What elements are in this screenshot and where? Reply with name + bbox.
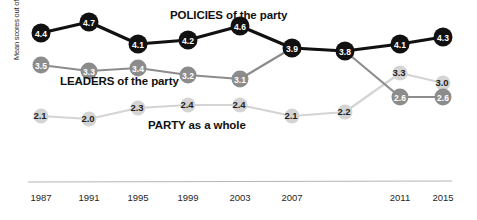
x-tick-label-2011: 2011 xyxy=(380,192,420,203)
data-label-party-0: 2.1 xyxy=(33,110,47,121)
data-label-leaders-8: 2.6 xyxy=(437,93,449,103)
series-annotation-party: PARTY as a whole xyxy=(148,119,246,131)
data-label-party-3: 2.4 xyxy=(180,99,194,110)
data-label-policies-3: 4.2 xyxy=(182,36,194,46)
data-label-policies-5: 3.9 xyxy=(286,44,298,54)
x-tick-label-1991: 1991 xyxy=(69,192,109,203)
data-label-party-6: 2.2 xyxy=(337,106,350,117)
series-leaders: 3.53.33.43.23.13.93.82.62.6 xyxy=(33,40,452,106)
series-annotation-party-text: PARTY as a whole xyxy=(148,119,246,131)
x-tick-label-2015: 2015 xyxy=(423,192,463,203)
x-axis xyxy=(28,181,452,182)
chart-container: 2.12.02.32.42.42.12.23.33.0 3.53.33.43.2… xyxy=(0,0,477,220)
data-label-party-2: 2.3 xyxy=(130,102,143,113)
series-annotation-policies-text: POLICIES of the party xyxy=(170,9,287,21)
y-axis-title: Mean scores out of 10 xyxy=(12,0,21,60)
data-label-party-1: 2.0 xyxy=(81,113,94,124)
line-chart-plot: 2.12.02.32.42.42.12.23.33.0 3.53.33.43.2… xyxy=(0,0,477,220)
data-label-leaders-2: 3.4 xyxy=(132,64,144,74)
data-label-leaders-0: 3.5 xyxy=(35,61,47,71)
data-label-policies-2: 4.1 xyxy=(132,40,144,50)
data-label-party-5: 2.1 xyxy=(284,110,298,121)
data-label-policies-7: 4.1 xyxy=(394,40,406,50)
data-label-policies-4: 4.6 xyxy=(234,22,246,32)
x-tick-label-1999: 1999 xyxy=(168,192,208,203)
x-axis-line xyxy=(28,181,452,182)
data-label-leaders-7: 2.6 xyxy=(394,93,406,103)
data-label-leaders-4: 3.1 xyxy=(234,75,246,85)
x-tick-label-1995: 1995 xyxy=(118,192,158,203)
data-label-party-7: 3.3 xyxy=(392,67,405,78)
series-annotation-leaders: LEADERS of the party xyxy=(60,75,179,87)
data-label-leaders-3: 3.2 xyxy=(182,71,194,81)
data-label-party-4: 2.4 xyxy=(232,99,246,110)
x-tick-label-1987: 1987 xyxy=(21,192,61,203)
data-label-policies-6: 3.8 xyxy=(339,47,351,57)
data-label-party-8: 3.0 xyxy=(435,77,448,88)
data-label-policies-1: 4.7 xyxy=(83,18,95,28)
data-label-policies-8: 4.3 xyxy=(437,33,449,43)
x-tick-label-2003: 2003 xyxy=(220,192,260,203)
x-tick-label-2007: 2007 xyxy=(272,192,312,203)
data-label-policies-0: 4.4 xyxy=(35,29,47,39)
y-axis-title-text: Mean scores out of 10 xyxy=(12,0,21,60)
series-annotation-leaders-text: LEADERS of the party xyxy=(60,75,179,87)
series-annotation-policies: POLICIES of the party xyxy=(170,9,287,21)
